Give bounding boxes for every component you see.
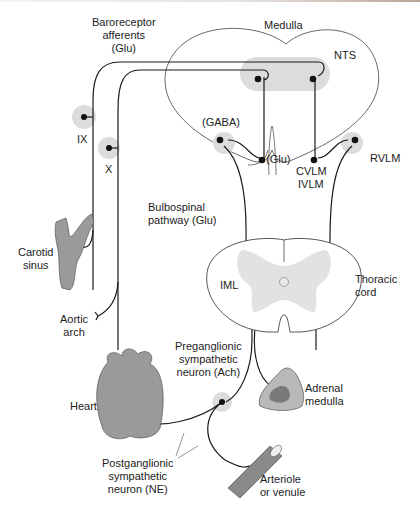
label-glu: (Glu) [266, 153, 290, 166]
label-gaba: (GABA) [202, 116, 240, 129]
label-postganglionic: Postganglionic sympathetic neuron (NE) [102, 457, 174, 496]
central-canal [280, 278, 289, 287]
label-baroreceptor-afferents: Baroreceptor afferents (Glu) [92, 16, 156, 55]
label-medulla: Medulla [264, 19, 303, 32]
label-ix: IX [77, 133, 87, 146]
label-heart: Heart [70, 400, 97, 413]
label-aortic-arch: Aortic arch [60, 313, 88, 339]
carotid-sinus-shape [55, 214, 94, 290]
label-nts: NTS [334, 49, 356, 62]
label-bulbospinal: Bulbospinal pathway (Glu) [148, 201, 216, 227]
label-arteriole: Arteriole or venule [260, 473, 305, 499]
rvlm-nucleus [341, 132, 363, 154]
label-rvlm: RVLM [370, 152, 400, 165]
label-adrenal-medulla: Adrenal medulla [305, 382, 344, 408]
cvlm-gaba-nucleus [213, 132, 235, 154]
label-x: X [105, 163, 112, 176]
baroreflex-diagram [0, 0, 420, 514]
leader-lines [176, 433, 198, 458]
label-thoracic-cord: Thoracic cord [355, 273, 397, 299]
heart-shape [97, 349, 163, 439]
label-ivlm: IVLM [298, 178, 324, 191]
label-preganglionic: Preganglionic sympathetic neuron (Ach) [175, 340, 242, 379]
label-iml: IML [220, 279, 238, 292]
label-cvlm: CVLM [296, 165, 327, 178]
label-carotid-sinus: Carotid sinus [18, 246, 53, 272]
